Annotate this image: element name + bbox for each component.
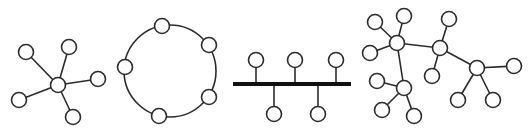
- network-node: [425, 69, 440, 84]
- network-node: [12, 93, 27, 108]
- network-node: [66, 110, 81, 125]
- network-node: [451, 93, 466, 108]
- topology-diagrams-svg: [0, 0, 530, 135]
- network-node: [433, 41, 448, 56]
- network-node: [288, 53, 303, 68]
- network-node: [370, 74, 385, 89]
- network-node: [202, 90, 217, 105]
- bus-topology: [233, 53, 351, 122]
- network-node: [19, 45, 34, 60]
- network-node: [397, 81, 412, 96]
- network-node: [267, 107, 282, 122]
- network-node: [311, 107, 326, 122]
- network-node: [249, 53, 264, 68]
- network-node: [507, 59, 522, 74]
- topology-diagram-canvas: [0, 0, 530, 135]
- star-topology: [12, 40, 106, 125]
- network-node: [62, 40, 77, 55]
- ring-link: [124, 25, 216, 117]
- tree-topology: [363, 9, 522, 124]
- network-node: [390, 36, 405, 51]
- network-node: [51, 78, 66, 93]
- network-node: [118, 60, 133, 75]
- network-node: [470, 61, 485, 76]
- network-node: [329, 53, 344, 68]
- network-node: [407, 109, 422, 124]
- network-node: [486, 93, 501, 108]
- network-node: [375, 103, 390, 118]
- ring-topology: [118, 19, 217, 124]
- network-node: [202, 38, 217, 53]
- network-node: [91, 72, 106, 87]
- network-node: [442, 12, 457, 27]
- network-node: [368, 15, 383, 30]
- network-node: [363, 46, 378, 61]
- network-node: [155, 19, 170, 34]
- network-node: [152, 109, 167, 124]
- network-node: [397, 9, 412, 24]
